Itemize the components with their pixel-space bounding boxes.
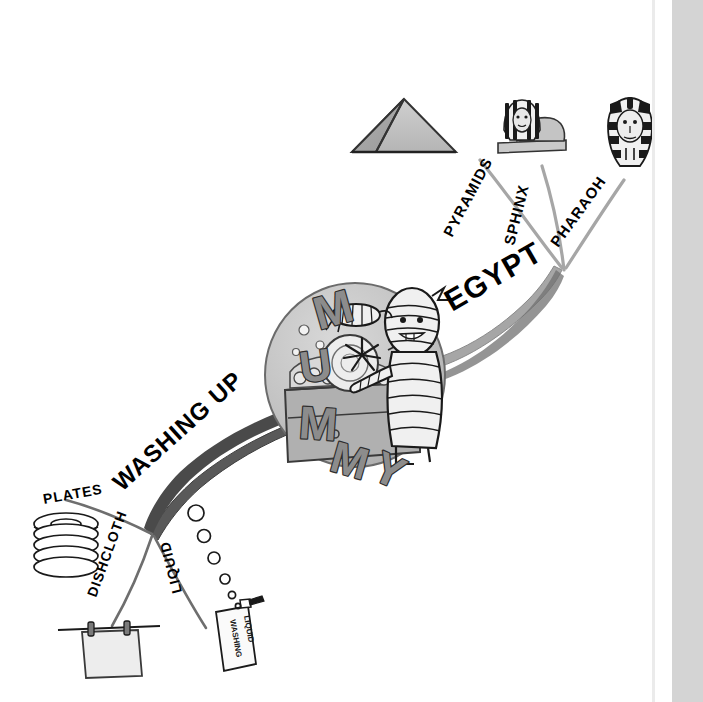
mind-map-canvas: M U M M Y: [0, 0, 703, 702]
dishcloth-icon: [58, 621, 160, 682]
branch-label-pyramids: PYRAMIDS: [440, 154, 496, 239]
plate-stack-icon: [34, 513, 98, 577]
right-side-panel: [672, 0, 703, 702]
center-bubble[interactable]: M U M M Y: [265, 279, 448, 498]
branch-label-pharaoh: PHARAOH: [547, 173, 609, 250]
liquid-bubbles: [188, 505, 241, 609]
pharaoh-mask-icon: [608, 97, 652, 166]
branch-label-liquid: LIQUID: [156, 539, 184, 595]
svg-text:U: U: [296, 339, 334, 392]
page-margin: [655, 0, 672, 702]
sphinx-icon: [498, 100, 566, 153]
mind-map-svg: M U M M Y: [0, 0, 703, 702]
pyramid-icon: [352, 99, 456, 152]
svg-text:M: M: [297, 396, 339, 451]
